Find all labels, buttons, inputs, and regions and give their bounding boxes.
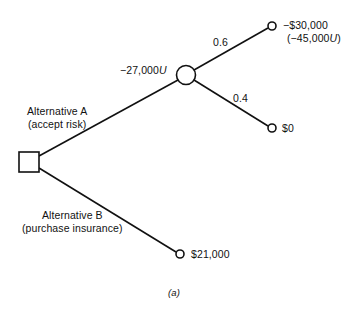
alternative-b-title: Alternative B (22, 209, 123, 222)
outcome-zero: $0 (282, 122, 294, 135)
outcome-loss: −$30,000 (−45,000U) (283, 19, 341, 45)
chance-node-expected-utility: −27,000U (120, 64, 167, 77)
branch-line-prob-0-4 (194, 80, 268, 126)
outcome-insurance: $21,000 (191, 248, 230, 261)
expected-utility-value: −27,000 (120, 64, 159, 76)
figure-caption: (a) (168, 286, 180, 299)
probability-label-high: 0.6 (213, 36, 228, 49)
outcome-loss-amount: −$30,000 (283, 19, 341, 32)
alternative-a-label: Alternative A (accept risk) (27, 105, 87, 131)
alternative-a-title: Alternative A (27, 105, 87, 118)
terminal-circle-icon-zero (268, 124, 276, 132)
alternative-b-subtitle: (purchase insurance) (22, 222, 123, 235)
outcome-loss-utility: (−45,000U) (287, 32, 341, 45)
terminal-circle-icon-insurance (176, 250, 184, 258)
decision-tree-canvas (0, 0, 359, 309)
decision-square-icon (19, 152, 39, 172)
alternative-b-label: Alternative B (purchase insurance) (22, 209, 123, 235)
probability-label-low: 0.4 (233, 92, 248, 105)
alternative-a-subtitle: (accept risk) (27, 118, 87, 131)
utility-unit: U (159, 64, 167, 76)
branch-line-prob-0-6 (194, 28, 268, 70)
chance-circle-icon (177, 66, 196, 85)
terminal-circle-icon-loss (268, 22, 276, 30)
